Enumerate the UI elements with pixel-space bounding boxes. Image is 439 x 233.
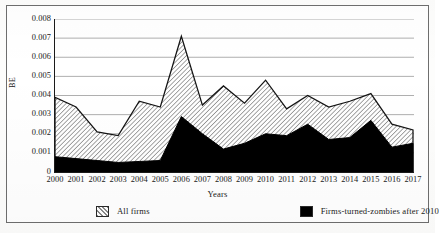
x-axis-tick-label: 2007 bbox=[194, 175, 211, 184]
area-chart-svg bbox=[55, 19, 414, 172]
x-axis-tick-label: 2013 bbox=[320, 175, 337, 184]
x-axis-title: Years bbox=[0, 189, 435, 199]
x-axis-tick-label: 2017 bbox=[404, 175, 421, 184]
y-axis-tick-label: 0.004 bbox=[32, 91, 51, 99]
x-axis-tick-label: 2010 bbox=[257, 175, 274, 184]
legend-swatch-zombies-icon bbox=[300, 206, 313, 217]
y-axis-title: BE bbox=[8, 77, 17, 88]
legend-item-zombies: Firms-turned-zombies after 2010 bbox=[300, 206, 439, 217]
x-axis-tick-label: 2015 bbox=[362, 175, 379, 184]
legend-item-all-firms: All firms bbox=[96, 206, 150, 217]
x-axis-tick-label: 2005 bbox=[152, 175, 169, 184]
y-axis-tick-label: 0.003 bbox=[32, 110, 51, 118]
y-axis-tick-label: 0.006 bbox=[32, 53, 51, 61]
x-axis-tick-label: 2003 bbox=[110, 175, 127, 184]
x-axis-tick-label: 2000 bbox=[46, 175, 63, 184]
x-axis-line bbox=[54, 172, 414, 173]
legend-label-all-firms: All firms bbox=[117, 206, 150, 216]
x-axis-tick-label: 2008 bbox=[215, 175, 232, 184]
x-axis-tick-label: 2002 bbox=[89, 175, 106, 184]
x-axis-tick-label: 2004 bbox=[131, 175, 148, 184]
x-axis-tick-label: 2006 bbox=[173, 175, 190, 184]
plot-area bbox=[55, 19, 414, 172]
x-axis-tick-label: 2001 bbox=[67, 175, 84, 184]
x-axis-tick-label: 2014 bbox=[341, 175, 358, 184]
y-axis-tick-label: 0.002 bbox=[32, 129, 51, 137]
y-axis-tick-label: 0.001 bbox=[32, 148, 51, 156]
legend-swatch-all-firms-icon bbox=[96, 206, 109, 217]
y-axis-tick-label: 0.007 bbox=[32, 34, 51, 42]
x-axis-tick-label: 2011 bbox=[278, 175, 295, 184]
y-axis-tick-label: 0.008 bbox=[32, 15, 51, 23]
chart-legend: All firms Firms-turned-zombies after 201… bbox=[34, 203, 404, 219]
x-axis-tick-label: 2016 bbox=[383, 175, 400, 184]
x-axis-tick-label: 2009 bbox=[236, 175, 253, 184]
x-axis-tick-label: 2012 bbox=[299, 175, 316, 184]
legend-label-zombies: Firms-turned-zombies after 2010 bbox=[321, 206, 439, 216]
x-axis-tick-labels: 2000200120022003200420052006200720082009… bbox=[55, 175, 414, 188]
y-axis-tick-label: 0.005 bbox=[32, 72, 51, 80]
